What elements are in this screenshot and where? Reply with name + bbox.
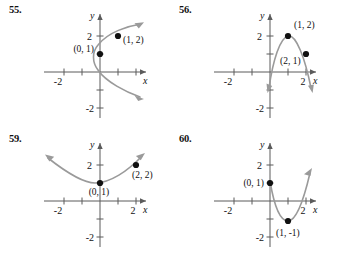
x-axis-arrow-icon [140,69,146,74]
x-ticklabel--2: -2 [224,205,232,216]
x-ticklabel--2: -2 [54,76,62,87]
point-label-2-2: (2, 2) [132,170,153,181]
graph-59: -2 2 2 -2 x y (0, 1) (2, 2) [0,129,170,258]
y-ticklabel-2: 2 [257,31,262,42]
y-ticklabel--2: -2 [256,232,264,243]
point-marker-2-2 [133,162,139,168]
x-ticklabel-2: 2 [301,205,306,216]
y-axis-label: y [89,10,95,21]
figure-panel-56: 56. -2 2 2 -2 x y (1, 2) [170,0,340,129]
point-label-1-2: (1, 2) [123,35,144,46]
point-label-0-1: (0, 1) [89,187,110,198]
y-ticklabel-2: 2 [87,160,92,171]
point-label-1-2: (1, 2) [294,20,315,31]
x-axis-label: x [312,75,318,86]
curve-arrow-upper-right-icon [304,168,312,176]
figure-sheet: 55. -2 2 [0,0,341,258]
y-ticklabel--2: -2 [256,103,264,114]
x-axis-label: x [142,75,148,86]
graph-60: -2 2 2 -2 x y (0, 1) (1, -1) [170,129,340,258]
point-marker-1-2 [285,33,291,39]
y-axis-arrow-icon [267,143,272,149]
point-label-2-1: (2, 1) [280,56,301,67]
point-marker-0-1 [97,180,103,186]
point-label-0-1: (0, 1) [73,44,94,55]
figure-panel-60: 60. -2 2 2 -2 x y (0, 1) (1, [170,129,340,258]
point-marker-2-1 [303,51,309,57]
y-ticklabel--2: -2 [86,232,94,243]
y-ticklabel-2: 2 [257,160,262,171]
x-axis-arrow-icon [140,198,146,203]
x-ticklabel--2: -2 [224,76,232,87]
figure-panel-59: 59. -2 2 2 -2 x y (0, 1) [0,129,170,258]
y-ticklabel-2: 2 [87,31,92,42]
x-ticklabel-2: 2 [301,76,306,87]
y-axis-label: y [89,139,95,150]
curve-arrow-upper-right-icon [136,153,145,160]
x-ticklabel-2: 2 [131,205,136,216]
x-axis-label: x [142,204,148,215]
y-axis-arrow-icon [97,14,102,20]
point-marker-1--1 [285,218,291,224]
point-label-1--1: (1, -1) [276,228,300,239]
x-axis-arrow-icon [310,198,316,203]
curve-arrow-upper-left-icon [45,155,54,162]
y-axis-label: y [259,10,265,21]
point-label-0-1: (0, 1) [243,178,264,189]
y-axis-arrow-icon [97,143,102,149]
x-axis-arrow-icon [310,69,316,74]
figure-panel-55: 55. -2 2 [0,0,170,129]
x-axis-label: x [312,204,318,215]
curve-59 [48,156,142,183]
point-marker-0-1 [267,180,273,186]
point-marker-0-1 [97,51,103,57]
graph-56: -2 2 2 -2 x y (1, 2) (2, 1) [170,0,340,129]
y-ticklabel--2: -2 [86,103,94,114]
curve-arrow-lower-left-icon [267,84,273,93]
y-axis-arrow-icon [267,14,272,20]
y-axis-label: y [259,139,265,150]
graph-55: -2 2 -2 x y (1, 2) (0, 1) [0,0,170,129]
point-marker-1-2 [115,33,121,39]
x-ticklabel--2: -2 [54,205,62,216]
